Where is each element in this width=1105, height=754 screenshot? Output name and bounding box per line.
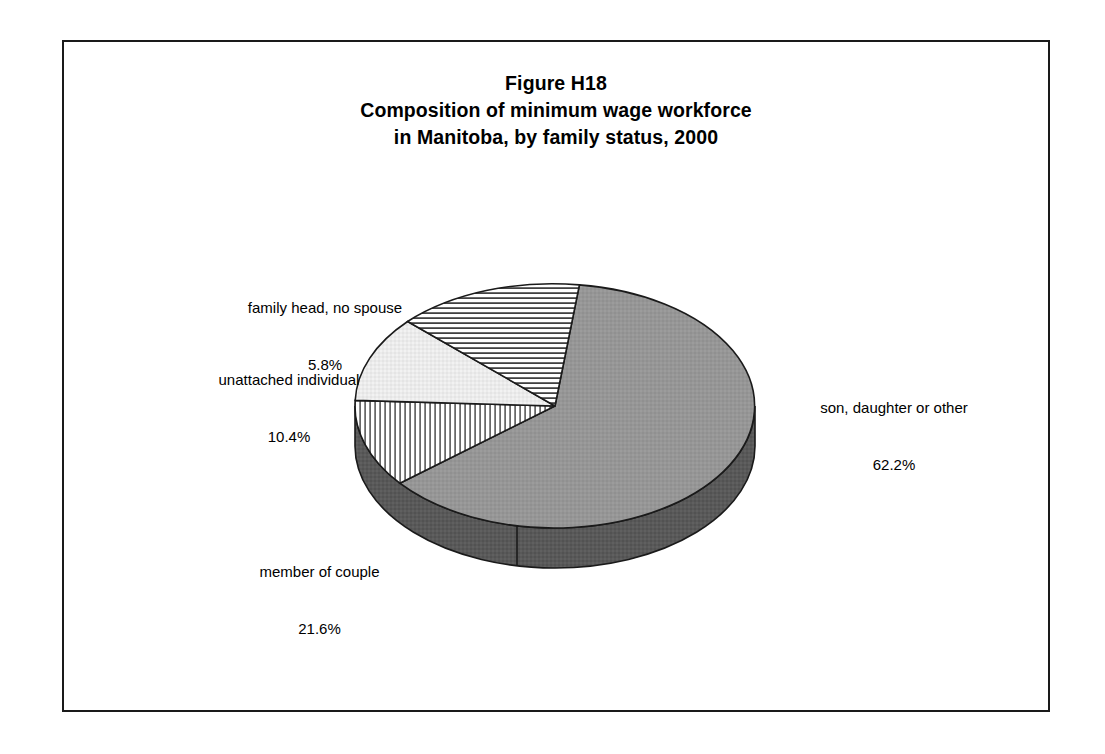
pie-label-unattached-individual: unattached individual 10.4% (164, 332, 414, 484)
pie-label-member-of-couple-value: 21.6% (202, 619, 437, 638)
pie-label-son-daughter-or-other: son, daughter or other 62.2% (764, 360, 1024, 512)
pie-label-unattached-individual-name: unattached individual (164, 370, 414, 389)
pie-label-member-of-couple: member of couple 21.6% (202, 524, 437, 676)
pie-label-family-head-no-spouse-name: family head, no spouse (200, 298, 450, 317)
pie-chart-plot-area: family head, no spouse 5.8% unattached i… (64, 42, 1052, 714)
figure-frame: Figure H18 Composition of minimum wage w… (62, 40, 1050, 712)
pie-label-son-daughter-or-other-value: 62.2% (764, 455, 1024, 474)
pie-label-son-daughter-or-other-name: son, daughter or other (764, 398, 1024, 417)
pie-label-unattached-individual-value: 10.4% (164, 427, 414, 446)
pie-label-member-of-couple-name: member of couple (202, 562, 437, 581)
